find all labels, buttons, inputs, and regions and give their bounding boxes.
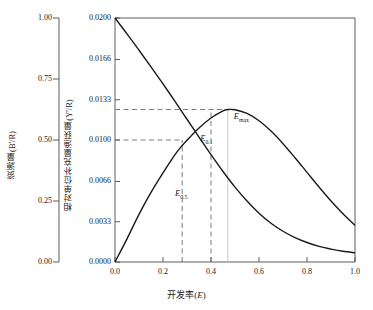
series-curve-1 [115, 109, 355, 262]
series-curve-0 [115, 18, 355, 253]
chart-plot-area [0, 0, 373, 310]
axes-lines [53, 18, 355, 262]
reference-lines [115, 110, 228, 263]
figure-container: 资源量(B'/R) 相对单位补充量渔获量(Y'/R) 开发率(E) 1.000.… [0, 0, 373, 310]
